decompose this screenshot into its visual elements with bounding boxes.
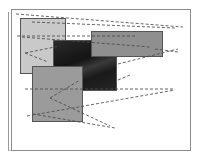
dashed-guide-lines bbox=[0, 0, 203, 160]
